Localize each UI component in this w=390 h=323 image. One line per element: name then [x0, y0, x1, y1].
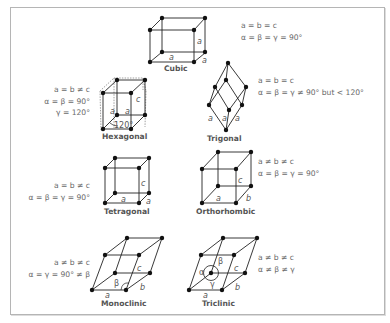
svg-text:a: a	[197, 37, 202, 46]
label-monoclinic: Monoclinic	[101, 299, 147, 308]
svg-text:c: c	[238, 176, 243, 185]
svg-text:γ: γ	[210, 280, 215, 289]
svg-text:a: a	[110, 107, 115, 116]
svg-text:c: c	[141, 179, 146, 188]
svg-text:a: a	[121, 195, 126, 204]
svg-text:c: c	[137, 264, 142, 273]
svg-text:a: a	[216, 194, 221, 203]
svg-text:a: a	[235, 114, 240, 123]
eq-hexagonal: a = b ≠ cα = β = 90°γ = 120°	[20, 84, 90, 119]
monoclinic-lattice: c β a b	[90, 236, 164, 300]
svg-text:a: a	[202, 56, 207, 65]
label-cubic: Cubic	[164, 64, 188, 73]
svg-text:a: a	[146, 197, 151, 206]
eq-trigonal: a = b = cα = β = γ ≠ 90° but < 120°	[258, 75, 364, 98]
eq-triclinic: a ≠ b ≠ cα ≠ β ≠ γ	[258, 252, 295, 275]
svg-text:c: c	[234, 264, 239, 273]
svg-text:β: β	[114, 279, 119, 288]
label-hexagonal: Hexagonal	[102, 132, 147, 141]
svg-text:b: b	[235, 283, 240, 292]
triclinic-lattice: β α γ c a b	[187, 236, 259, 300]
orthorhombic-lattice: c a b	[200, 150, 253, 205]
svg-text:b: b	[140, 283, 145, 292]
svg-text:a: a	[222, 114, 227, 123]
eq-orthorhombic: a ≠ b ≠ cα = β = γ = 90°	[258, 156, 319, 179]
eq-tetragonal: a = b ≠ cα = β = γ = 90°	[15, 180, 90, 203]
svg-text:a: a	[125, 107, 130, 116]
svg-text:a: a	[208, 114, 213, 123]
svg-text:β: β	[218, 257, 223, 266]
label-tetragonal: Tetragonal	[104, 207, 150, 216]
svg-text:a: a	[169, 53, 174, 62]
tetragonal-lattice: c a a	[103, 156, 151, 206]
eq-monoclinic: a ≠ b ≠ cα = γ = 90° ≠ β	[10, 257, 90, 280]
hexagonal-lattice: c a a 120°	[100, 78, 147, 131]
label-orthorhombic: Orthorhombic	[196, 207, 255, 216]
svg-text:b: b	[246, 194, 251, 203]
cubic-lattice: a a a	[148, 16, 207, 65]
label-triclinic: Triclinic	[202, 299, 235, 308]
svg-text:120°: 120°	[114, 121, 133, 130]
svg-text:α: α	[199, 268, 204, 277]
trigonal-lattice: a a a	[207, 61, 248, 132]
label-trigonal: Trigonal	[207, 134, 241, 143]
eq-cubic: a = b = cα = β = γ = 90°	[241, 20, 302, 43]
svg-text:c: c	[136, 95, 141, 104]
